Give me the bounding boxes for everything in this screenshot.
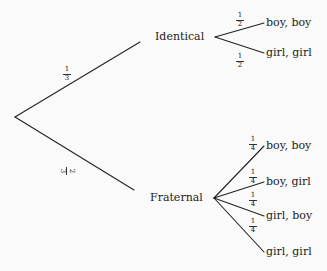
outcome-fraternal-gb: girl, boy	[266, 210, 312, 222]
branch-identical-gg	[215, 37, 264, 53]
node-identical: Identical	[155, 31, 204, 43]
prob-fraternal-bg: 1 4	[249, 169, 257, 185]
outcome-fraternal-bg: boy, girl	[266, 176, 311, 188]
prob-identical-bb: 1 2	[236, 12, 244, 28]
outcome-fraternal-gg: girl, girl	[266, 246, 312, 258]
prob-identical: 1 3	[63, 66, 71, 82]
prob-identical-gg: 1 2	[236, 53, 244, 69]
prob-fraternal-gb: 1 4	[249, 192, 257, 208]
branch-identical	[15, 42, 140, 117]
outcome-fraternal-bb: boy, boy	[266, 140, 311, 152]
outcome-identical-gg: girl, girl	[266, 47, 312, 59]
prob-fraternal-gg: 1 4	[249, 218, 257, 234]
prob-fraternal: 2 3	[59, 167, 75, 175]
prob-fraternal-bb: 1 4	[249, 136, 257, 152]
outcome-identical-bb: boy, boy	[266, 17, 311, 29]
branch-fraternal	[15, 117, 134, 190]
node-fraternal: Fraternal	[150, 192, 203, 204]
